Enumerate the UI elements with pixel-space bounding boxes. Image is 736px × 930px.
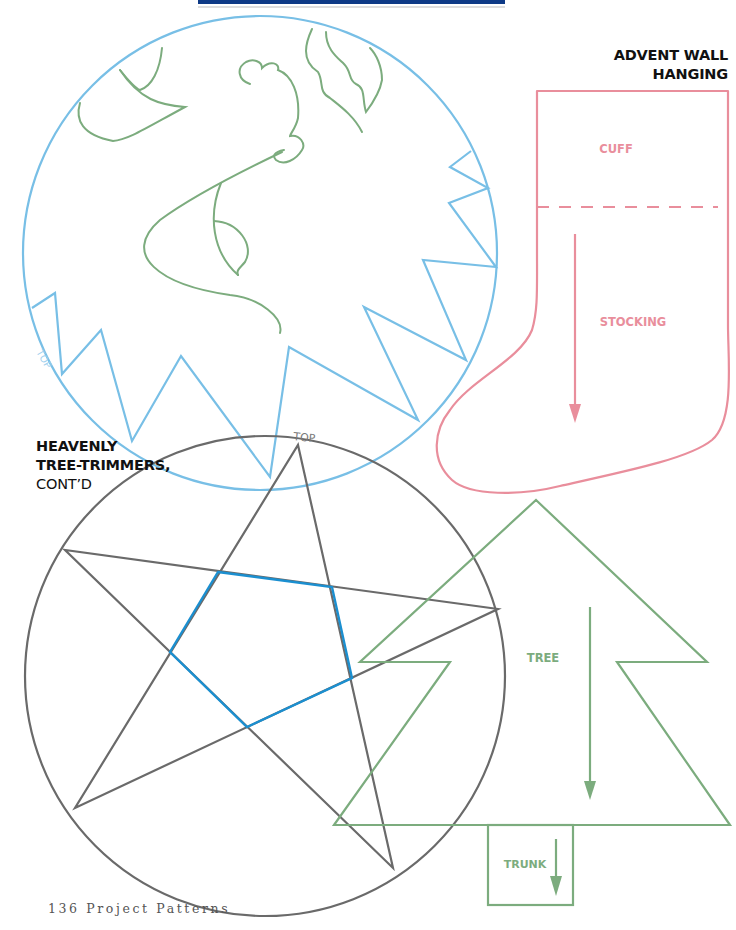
- advent-title-line1: ADVENT WALL: [614, 46, 728, 65]
- cuff-label: CUFF: [599, 142, 633, 156]
- angel-top-label: TOP: [34, 347, 54, 371]
- angel-circle-outline: [23, 16, 497, 490]
- advent-wall-hanging-title: ADVENT WALL HANGING: [614, 46, 728, 84]
- heavenly-tree-trimmers-title: HEAVENLY TREE-TRIMMERS, CONT’D: [36, 437, 170, 494]
- star-inner-pentagon: [170, 572, 352, 727]
- page-footer: 136 Project Patterns: [48, 901, 230, 916]
- angel-details: [79, 29, 382, 333]
- star-top-label: TOP: [292, 430, 317, 445]
- star-circle-outline: [25, 436, 505, 916]
- heavenly-title-line3: CONT’D: [36, 475, 170, 494]
- tree-pattern: [334, 500, 730, 905]
- heavenly-title-line1: HEAVENLY: [36, 437, 170, 456]
- tree-arrow-head: [584, 781, 596, 800]
- tree-label: TREE: [527, 651, 560, 665]
- advent-title-line2: HANGING: [614, 65, 728, 84]
- stocking-arrow-head: [569, 404, 581, 423]
- stocking-label: STOCKING: [600, 315, 667, 329]
- heavenly-title-line2: TREE-TRIMMERS,: [36, 456, 170, 475]
- stocking-outline: [437, 91, 729, 493]
- star-pattern: [25, 436, 505, 916]
- trunk-arrow-head: [550, 876, 562, 896]
- stocking-pattern: [437, 91, 729, 493]
- star-outline: [65, 445, 498, 868]
- trunk-label: TRUNK: [504, 858, 547, 871]
- angel-pattern: [23, 16, 497, 490]
- header-bar: [198, 0, 505, 4]
